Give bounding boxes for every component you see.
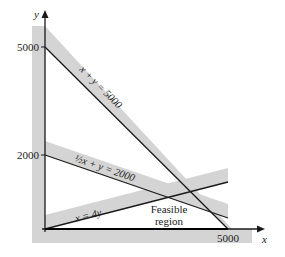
y-axis-arrow-icon [42,10,49,18]
y-tick-label-2000: 2000 [17,149,40,161]
shading-bands [32,26,252,243]
lp-diagram: y x 5000 2000 5000 x + y = 5000 ½x + y =… [0,0,285,257]
x-axis-label: x [261,233,267,245]
y-axis-label: y [33,8,39,20]
x-axis-arrow-icon [257,226,265,233]
x-tick-label-5000: 5000 [217,232,240,244]
band-x-nonnegative [32,26,45,243]
feasible-region-label-line2: region [155,215,184,227]
label-c1: x + y = 5000 [77,63,125,111]
feasible-region-label-line1: Feasible [151,203,188,215]
y-tick-label-5000: 5000 [17,41,40,53]
